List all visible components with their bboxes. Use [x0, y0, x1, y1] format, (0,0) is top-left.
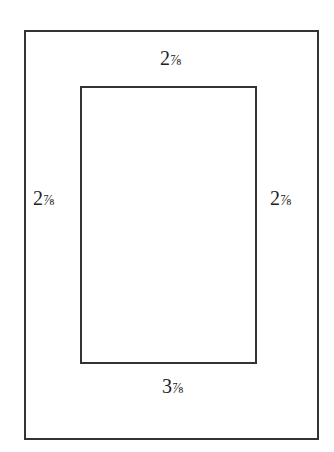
bottom-border-measurement: 3⅞	[162, 376, 182, 396]
left-whole: 2	[33, 187, 43, 209]
top-whole: 2	[160, 47, 170, 69]
bottom-whole: 3	[162, 375, 172, 397]
inner-opening	[80, 86, 257, 364]
right-fraction: ⅞	[280, 192, 290, 208]
top-fraction: ⅞	[170, 52, 180, 68]
left-fraction: ⅞	[43, 192, 53, 208]
right-border-measurement: 2⅞	[270, 188, 290, 208]
bottom-fraction: ⅞	[172, 380, 182, 396]
right-whole: 2	[270, 187, 280, 209]
top-border-measurement: 2⅞	[160, 48, 180, 68]
left-border-measurement: 2⅞	[33, 188, 53, 208]
